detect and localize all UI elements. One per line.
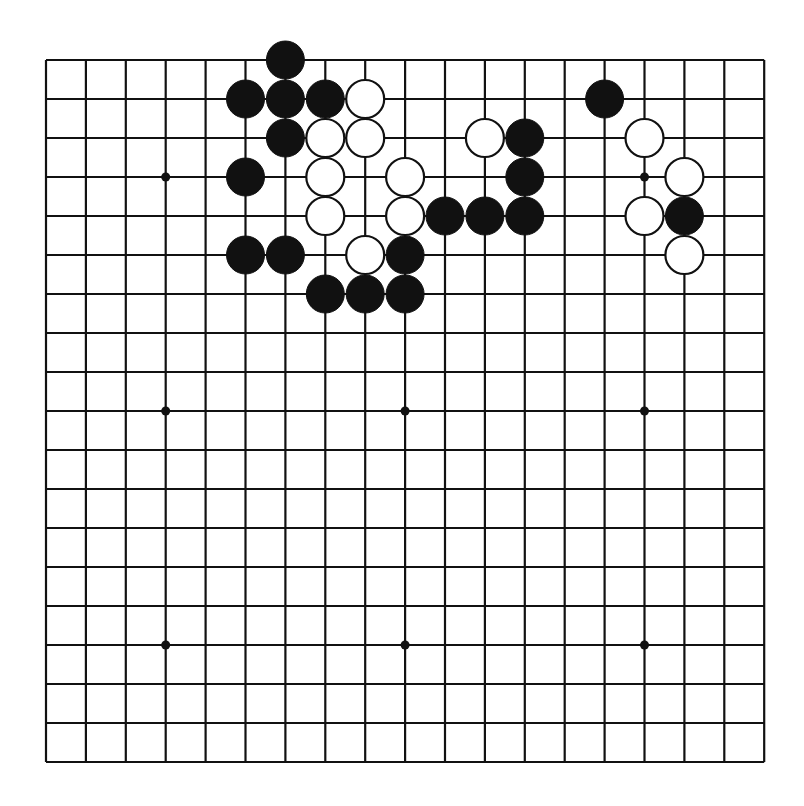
- black-stone: [466, 197, 504, 235]
- white-stone: [386, 197, 424, 235]
- black-stone: [227, 236, 265, 274]
- black-stone: [266, 41, 304, 79]
- black-stone: [386, 236, 424, 274]
- white-stone: [306, 197, 344, 235]
- white-stone: [306, 158, 344, 196]
- white-stone: [306, 119, 344, 157]
- star-point-icon: [161, 641, 170, 650]
- star-point-icon: [401, 641, 410, 650]
- white-stone: [346, 236, 384, 274]
- star-point-icon: [640, 641, 649, 650]
- white-stone: [386, 158, 424, 196]
- black-stone: [586, 80, 624, 118]
- black-stone: [665, 197, 703, 235]
- star-point-icon: [640, 407, 649, 416]
- black-stone: [266, 80, 304, 118]
- white-stone: [626, 119, 664, 157]
- black-stone: [506, 119, 544, 157]
- star-point-icon: [401, 407, 410, 416]
- white-stone: [346, 80, 384, 118]
- white-stone: [665, 236, 703, 274]
- black-stone: [227, 158, 265, 196]
- black-stone: [306, 80, 344, 118]
- white-stone: [665, 158, 703, 196]
- black-stone: [506, 158, 544, 196]
- black-stone: [306, 275, 344, 313]
- white-stone: [346, 119, 384, 157]
- black-stone: [386, 275, 424, 313]
- star-point-icon: [640, 173, 649, 182]
- black-stone: [266, 236, 304, 274]
- white-stone: [626, 197, 664, 235]
- black-stone: [266, 119, 304, 157]
- black-stone: [506, 197, 544, 235]
- white-stone: [466, 119, 504, 157]
- star-point-icon: [161, 407, 170, 416]
- go-board[interactable]: [0, 0, 804, 806]
- black-stone: [346, 275, 384, 313]
- black-stone: [227, 80, 265, 118]
- black-stone: [426, 197, 464, 235]
- star-point-icon: [161, 173, 170, 182]
